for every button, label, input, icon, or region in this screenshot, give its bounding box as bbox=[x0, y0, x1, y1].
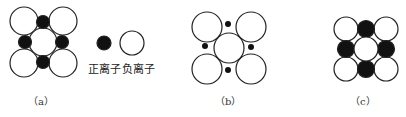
cation-dot bbox=[358, 21, 375, 38]
anion-circle bbox=[29, 28, 57, 56]
cation-dot bbox=[358, 61, 375, 78]
anion-circle bbox=[49, 7, 77, 35]
legend-cation-icon bbox=[97, 36, 111, 50]
caption-c: （c） bbox=[350, 93, 376, 108]
anion-circle bbox=[334, 17, 358, 41]
cation-dot bbox=[225, 67, 231, 73]
cation-dot bbox=[56, 36, 69, 49]
caption-a: （a） bbox=[28, 93, 54, 108]
cation-dot bbox=[202, 43, 208, 49]
anion-circle bbox=[374, 57, 398, 81]
cation-dot bbox=[19, 36, 32, 49]
cation-dot bbox=[225, 21, 231, 27]
cation-dot bbox=[248, 44, 254, 50]
cation-dot bbox=[338, 41, 355, 58]
anion-circle bbox=[334, 57, 358, 81]
anion-circle bbox=[49, 49, 77, 77]
caption-b: （b） bbox=[215, 93, 241, 108]
anion-circle bbox=[354, 37, 378, 61]
panel-c bbox=[334, 17, 398, 81]
anion-circle bbox=[374, 17, 398, 41]
cation-dot bbox=[37, 16, 50, 29]
legend bbox=[97, 31, 144, 55]
legend-cation-label: 正离子 bbox=[88, 60, 121, 76]
panel-b bbox=[192, 12, 266, 84]
legend-anion-icon bbox=[120, 31, 144, 55]
panel-a bbox=[10, 7, 77, 77]
legend-anion-label: 负离子 bbox=[122, 60, 155, 76]
cation-dot bbox=[37, 56, 50, 69]
cation-dot bbox=[378, 41, 395, 58]
anion-circle bbox=[214, 33, 244, 63]
diagram-canvas bbox=[0, 0, 406, 117]
